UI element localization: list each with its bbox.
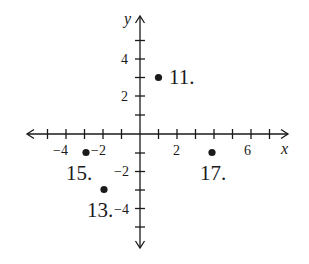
point-label: 11. [169,65,194,89]
point-17: 17. [200,149,226,185]
point-dot [208,149,215,156]
point-11: 11. [155,65,195,89]
point-label: 17. [200,161,226,185]
y-tick-label-neg2: −2 [114,164,129,179]
point-label: 15. [66,161,92,185]
x-tick-label-6: 6 [244,143,251,158]
x-tick-label-neg2: −2 [91,143,106,158]
point-15: 15. [66,149,92,185]
y-tick-label-neg4: −4 [114,202,129,217]
x-axis [27,129,288,139]
point-dot [155,74,162,81]
x-axis-label: x [280,140,288,157]
coordinate-plane: y x −4 −2 2 6 4 2 −2 −4 11. 13. 15. 17. [0,0,309,264]
y-axis-label: y [122,10,132,28]
x-tick-label-2: 2 [173,143,180,158]
y-axis [135,16,145,248]
y-tick-label-4: 4 [121,52,128,67]
point-13: 13. [87,186,113,222]
point-dot [100,186,107,193]
x-tick-label-neg4: −4 [53,143,68,158]
y-tick-label-2: 2 [121,89,128,104]
point-dot [82,149,89,156]
point-label: 13. [87,198,113,222]
